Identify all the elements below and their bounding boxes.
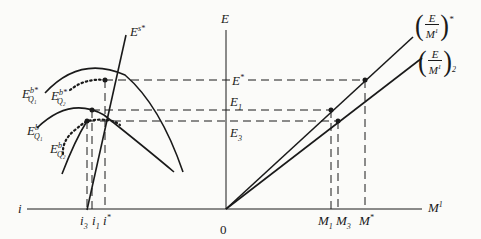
ray-E-M-star [226,37,413,209]
point-M-star [363,78,368,83]
ray-label-E-M-2: ( EM1 ) 2 [418,48,456,76]
point-M3 [336,119,341,124]
tick-M3: M3 [336,214,351,231]
demand-curve-EbQ2-lower [62,121,87,174]
supply-curve-Es-star [87,35,126,210]
axis-label-E: E [221,12,229,25]
label-EbQ1-star: Eb*Q₁ [22,87,37,104]
axis-label-i: i [18,202,22,215]
supply-curve-label: Es* [130,25,145,38]
tick-M-star: M* [359,214,374,227]
ray-label-E-M-star: ( EM1 ) * [415,12,454,40]
axis-label-M1: M1 [428,201,443,214]
label-E1: E1 [230,95,242,112]
label-EbQ2: EbQ₂ [50,142,66,159]
tick-i1: i1 [92,214,100,231]
point-E3-left [85,119,90,124]
demand-curve-EbQ2-star [70,80,105,90]
diagram-canvas [0,0,481,239]
tick-M1: M1 [318,214,333,231]
point-M1 [329,108,334,113]
tick-i3: i3 [80,214,88,231]
demand-curve-EbQ2 [63,120,120,154]
label-EbQ1: EbQ₁ [27,124,43,141]
label-E-star: E* [230,74,246,87]
tick-i-star: i* [103,214,111,227]
origin-label: 0 [220,223,227,236]
label-E3: E3 [230,126,242,143]
point-E1-left [90,108,95,113]
ray-E-M-2 [226,58,422,209]
label-EbQ2-star: Eb*Q₂ [51,89,66,106]
point-E-star-left [103,78,108,83]
